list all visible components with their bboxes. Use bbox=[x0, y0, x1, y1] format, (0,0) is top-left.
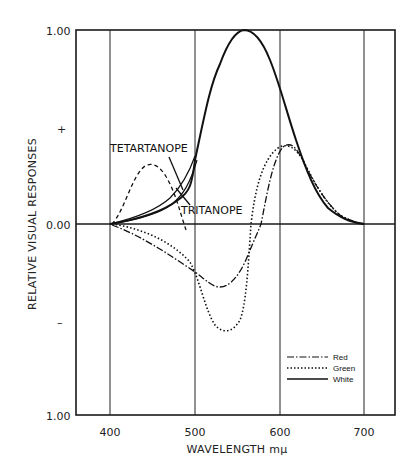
y-tick-zero: 0.00 bbox=[46, 219, 71, 232]
y-plus-sign: + bbox=[57, 123, 66, 136]
green-curve bbox=[112, 146, 364, 331]
x-tick-400: 400 bbox=[100, 426, 121, 439]
legend-white-label: White bbox=[333, 375, 354, 384]
annotation-tritanope: TRITANOPE bbox=[180, 204, 243, 217]
x-tick-700: 700 bbox=[354, 426, 375, 439]
white-curve bbox=[110, 30, 364, 224]
tetartanope-pointer bbox=[169, 157, 183, 190]
legend: Red Green White bbox=[287, 353, 355, 384]
legend-red-label: Red bbox=[333, 353, 348, 362]
y-minus-sign: – bbox=[57, 316, 63, 329]
chart-canvas: 1.00 0.00 1.00 + – 400 500 600 700 WAVEL… bbox=[0, 0, 414, 470]
x-tick-600: 600 bbox=[270, 426, 291, 439]
annotation-tetartanope: TETARTANOPE bbox=[109, 142, 188, 155]
legend-green-label: Green bbox=[333, 364, 355, 373]
x-axis-title: WAVELENGTH mμ bbox=[186, 443, 287, 456]
y-axis-title: RELATIVE VISUAL RESPONSES bbox=[26, 138, 39, 310]
y-tick-top: 1.00 bbox=[46, 25, 71, 38]
x-tick-500: 500 bbox=[185, 426, 206, 439]
y-tick-bottom: 1.00 bbox=[46, 410, 71, 423]
